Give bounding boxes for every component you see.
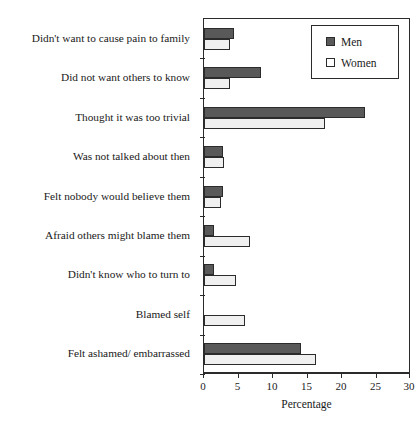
bar-men — [204, 225, 214, 236]
category-label: Felt ashamed/ embarrassed — [0, 347, 190, 359]
bar-women — [204, 39, 230, 50]
bar-group — [204, 146, 409, 168]
bar-group — [204, 264, 409, 286]
legend-label: Men — [341, 36, 362, 48]
bar-group — [204, 186, 409, 208]
x-axis-tick — [203, 373, 204, 378]
y-axis-tick — [200, 177, 205, 178]
bar-women — [204, 157, 224, 168]
bar-women — [204, 118, 325, 129]
category-label: Didn't know who to turn to — [0, 268, 190, 280]
x-axis-tick — [272, 373, 273, 378]
bar-women — [204, 78, 230, 89]
bar-group — [204, 225, 409, 247]
x-axis-tick — [238, 373, 239, 378]
category-label: Blamed self — [0, 308, 190, 320]
bar-group — [204, 304, 409, 326]
y-axis-tick — [200, 58, 205, 59]
y-axis-tick — [200, 216, 205, 217]
legend-item-women: Women — [326, 52, 398, 73]
bar-men — [204, 107, 365, 118]
y-axis-tick — [200, 137, 205, 138]
x-axis-tick-label: 25 — [363, 380, 389, 393]
legend-item-men: Men — [326, 31, 398, 52]
bar-women — [204, 315, 245, 326]
x-axis-tick — [307, 373, 308, 378]
x-axis-tick-label: 30 — [396, 380, 420, 393]
category-label: Thought it was too trivial — [0, 111, 190, 123]
bar-women — [204, 354, 316, 365]
bar-men — [204, 343, 301, 354]
bar-men — [204, 264, 214, 275]
bar-women — [204, 275, 236, 286]
bar-men — [204, 146, 223, 157]
legend-swatch-women — [326, 58, 335, 67]
x-axis-tick — [376, 373, 377, 378]
x-axis-title: Percentage — [203, 398, 410, 410]
bar-men — [204, 67, 261, 78]
bar-group — [204, 343, 409, 365]
bar-men — [204, 28, 234, 39]
x-axis-tick-label: 15 — [294, 380, 320, 393]
y-axis-tick — [200, 98, 205, 99]
legend-label: Women — [341, 57, 376, 69]
category-label: Did not want others to know — [0, 71, 190, 83]
category-label: Felt nobody would believe them — [0, 190, 190, 202]
bar-men — [204, 186, 223, 197]
category-axis-labels: Didn't want to cause pain to familyDid n… — [0, 18, 196, 373]
x-axis-tick-label: 5 — [225, 380, 251, 393]
x-axis-tick-label: 10 — [259, 380, 285, 393]
category-label: Afraid others might blame them — [0, 229, 190, 241]
bar-group — [204, 107, 409, 129]
category-label: Didn't want to cause pain to family — [0, 32, 190, 44]
x-axis-tick — [409, 373, 410, 378]
y-axis-tick — [200, 335, 205, 336]
bar-chart: Didn't want to cause pain to familyDid n… — [0, 0, 420, 430]
x-axis-tick — [341, 373, 342, 378]
legend-swatch-men — [326, 37, 335, 46]
category-label: Was not talked about then — [0, 150, 190, 162]
chart-legend: MenWomen — [311, 25, 399, 79]
x-axis-tick-label: 0 — [190, 380, 216, 393]
y-axis-tick — [200, 295, 205, 296]
x-axis-tick-label: 20 — [328, 380, 354, 393]
bar-women — [204, 236, 250, 247]
bar-women — [204, 197, 221, 208]
y-axis-tick — [200, 256, 205, 257]
